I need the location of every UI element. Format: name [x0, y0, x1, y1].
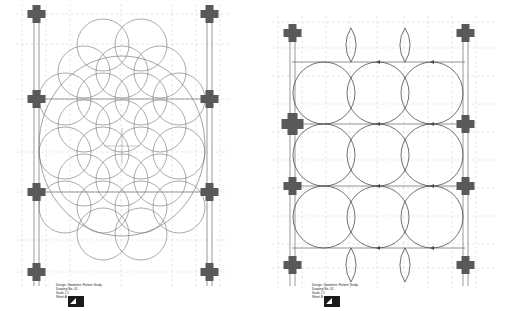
horizontal-rules — [36, 99, 209, 192]
drawing-sheet: Design: Geometric Pattern Study Drawing … — [0, 0, 520, 311]
node-plate — [457, 115, 475, 133]
construction-grid-dashed — [272, 16, 496, 290]
horizontal-rules — [292, 62, 465, 248]
center-crosshair — [104, 128, 140, 164]
node-plate — [284, 256, 302, 274]
construction-grid-dashed — [16, 4, 230, 290]
node-plate — [28, 5, 46, 23]
node-plate — [201, 5, 219, 23]
node-plate — [28, 263, 46, 281]
panel-right: Design: Geometric Pattern Study Drawing … — [264, 0, 509, 311]
node-plate — [284, 177, 302, 195]
node-plate — [457, 256, 475, 274]
title-block-text-right: Design: Geometric Pattern Study Drawing … — [312, 283, 382, 299]
studio-logo-left — [68, 296, 84, 307]
node-plate — [284, 24, 302, 42]
node-plate — [201, 263, 219, 281]
node-plate — [201, 90, 219, 108]
node-plate — [28, 183, 46, 201]
node-group — [28, 5, 219, 281]
node-plate — [28, 90, 46, 108]
panel-left: Design: Geometric Pattern Study Drawing … — [8, 0, 253, 311]
node-plate — [282, 113, 304, 135]
title-block-text-left: Design: Geometric Pattern Study Drawing … — [56, 283, 126, 299]
studio-logo-right — [324, 296, 340, 307]
node-plate — [457, 177, 475, 195]
node-plate — [457, 24, 475, 42]
arrow-ticks — [376, 60, 434, 250]
